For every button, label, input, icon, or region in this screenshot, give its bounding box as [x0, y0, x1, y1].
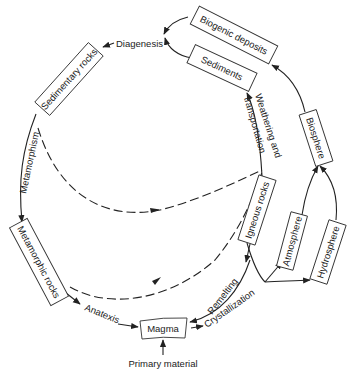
edge-diagenesis-to-sedimentary	[103, 43, 114, 47]
label-primary-material: Primary material	[128, 358, 197, 369]
rock-cycle-diagram: Biogenic deposits Sediments Diagenesis S…	[0, 0, 351, 375]
node-magma: Magma	[140, 318, 187, 339]
edge-biosphere-to-biogenic	[272, 65, 305, 112]
label-metamorphism: Metamorphism	[17, 131, 41, 195]
node-atmosphere: Atmosphere	[277, 212, 308, 270]
node-biosphere: Biosphere	[299, 110, 333, 167]
edge-to-hydrosphere	[265, 280, 310, 282]
label-anatexis: Anatexis	[83, 302, 121, 326]
node-hydrosphere: Hydrosphere	[310, 220, 346, 285]
node-sedimentary-rocks: Sedimentary rocks	[35, 43, 103, 116]
edge-atmosphere-to-biosphere	[302, 166, 318, 215]
node-igneous-rocks: Igneous rocks	[238, 175, 276, 245]
node-metamorphic-rocks: Metamorphic rocks	[10, 218, 69, 305]
svg-text:Metamorphic rocks: Metamorphic rocks	[15, 224, 63, 300]
svg-text:Sedimentary rocks: Sedimentary rocks	[39, 46, 100, 112]
svg-text:Biogenic deposits: Biogenic deposits	[198, 13, 270, 57]
arrow-icon	[152, 277, 161, 285]
label-diagenesis: Diagenesis	[116, 38, 163, 49]
svg-text:Magma: Magma	[147, 323, 179, 334]
edge-biogenic-to-diagenesis	[164, 17, 188, 34]
dashed-edge-sedimentary-to-igneous	[38, 128, 262, 212]
edge-crystallization	[191, 326, 203, 328]
edge-sediments-to-diagenesis	[165, 38, 192, 58]
edge-anatexis-to-magma	[118, 324, 138, 327]
edge-hydrosphere-to-biosphere	[320, 166, 336, 220]
